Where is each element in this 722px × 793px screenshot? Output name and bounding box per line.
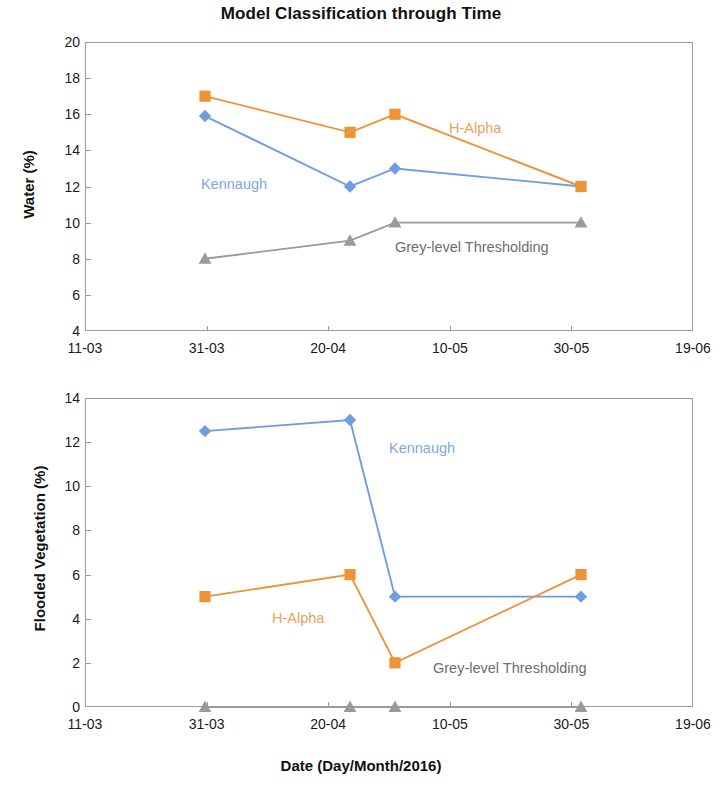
series-label-grey-water: Grey-level Thresholding — [395, 239, 549, 255]
x-tick-mark — [571, 326, 572, 331]
x-tick-label: 19-06 — [675, 716, 711, 732]
x-tick-label: 11-03 — [68, 340, 103, 356]
data-point-square — [389, 109, 400, 120]
y-tick-mark — [85, 619, 91, 620]
y-tick-mark — [85, 114, 91, 115]
y-tick-mark — [85, 663, 91, 664]
y-tick-mark — [85, 442, 91, 443]
figure-title: Model Classification through Time — [0, 4, 722, 24]
x-tick-label: 20-04 — [310, 716, 346, 732]
series-label-halpha-flooded-vegetation: H-Alpha — [272, 610, 324, 626]
x-tick-mark — [450, 702, 451, 707]
chart-panel-water: Water (%) 201816141210864 11-0331-0320-0… — [0, 30, 722, 375]
y-tick-mark — [85, 78, 91, 79]
y-tick-mark — [85, 259, 91, 260]
x-tick-label: 19-06 — [675, 340, 711, 356]
data-point-square — [575, 569, 586, 580]
x-tick-label: 30-05 — [553, 340, 589, 356]
x-tick-label: 11-03 — [68, 716, 103, 732]
x-tick-label: 31-03 — [189, 340, 225, 356]
chart-panel-flooded-vegetation: Flooded Vegetation (%) 14121086420 11-03… — [0, 385, 722, 730]
y-tick-mark — [85, 486, 91, 487]
series-label-halpha-water: H-Alpha — [449, 120, 501, 136]
x-tick-mark — [450, 326, 451, 331]
x-tick-label: 10-05 — [432, 340, 468, 356]
data-point-diamond — [389, 162, 401, 174]
data-point-diamond — [344, 414, 356, 426]
x-tick-mark — [328, 326, 329, 331]
y-tick-mark — [85, 530, 91, 531]
y-tick-mark — [85, 575, 91, 576]
y-tick-mark — [85, 187, 91, 188]
series-label-grey-flooded-vegetation: Grey-level Thresholding — [433, 660, 587, 676]
data-point-square — [199, 591, 210, 602]
x-tick-label: 10-05 — [432, 716, 468, 732]
data-point-triangle — [344, 234, 357, 245]
data-point-diamond — [199, 425, 211, 437]
data-point-square — [389, 657, 400, 668]
series-layer-water — [0, 30, 722, 375]
series-label-kennaugh-water: Kennaugh — [201, 176, 267, 192]
data-point-square — [199, 91, 210, 102]
figure-canvas: Model Classification through Time Water … — [0, 0, 722, 793]
series-layer-flooded-vegetation — [0, 385, 722, 730]
x-tick-label: 31-03 — [189, 716, 225, 732]
y-tick-mark — [85, 150, 91, 151]
x-axis-title: Date (Day/Month/2016) — [0, 757, 722, 774]
x-tick-mark — [571, 702, 572, 707]
x-tick-mark — [328, 702, 329, 707]
data-point-diamond — [575, 590, 587, 602]
data-point-square — [344, 569, 355, 580]
x-tick-mark — [207, 326, 208, 331]
y-tick-mark — [85, 295, 91, 296]
x-tick-mark — [207, 702, 208, 707]
data-point-diamond — [389, 590, 401, 602]
y-tick-mark — [85, 223, 91, 224]
data-point-diamond — [344, 180, 356, 192]
x-tick-label: 20-04 — [310, 340, 346, 356]
data-point-square — [344, 127, 355, 138]
x-tick-label: 30-05 — [553, 716, 589, 732]
data-point-square — [575, 181, 586, 192]
series-label-kennaugh-flooded-vegetation: Kennaugh — [389, 440, 455, 456]
data-point-diamond — [199, 110, 211, 122]
